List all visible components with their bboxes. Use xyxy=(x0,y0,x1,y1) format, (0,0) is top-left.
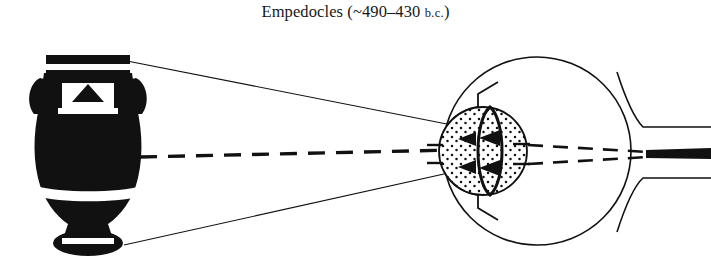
visual-ray-line xyxy=(140,150,455,157)
vase-neck-band xyxy=(58,108,118,114)
sclera-notch-top xyxy=(478,82,498,107)
nerve-sheath-upper xyxy=(617,72,711,127)
cone-line-upper xyxy=(122,60,462,127)
optic-nerve-bar xyxy=(646,148,711,159)
nerve-sheath-lower xyxy=(617,178,711,232)
figure-root: Empedocles (~490–430 b.c.) xyxy=(0,0,711,268)
vase-neck-panel-border-top xyxy=(62,80,114,83)
vase-rim xyxy=(46,55,130,64)
sclera-notch-bottom xyxy=(478,195,498,220)
nerve-dash-upper xyxy=(528,145,648,152)
vase-foot-stripe xyxy=(62,238,114,244)
empedocles-vision-diagram xyxy=(0,0,711,268)
visual-ray-dashed-arrow xyxy=(118,148,455,166)
vase-rim-stripe xyxy=(49,64,127,70)
optic-nerve xyxy=(528,72,711,232)
cone-line-lower xyxy=(124,170,462,245)
vase-rim-underline xyxy=(46,70,130,74)
human-eye xyxy=(427,57,631,245)
